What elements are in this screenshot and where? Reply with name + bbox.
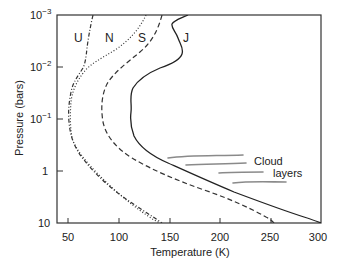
x-tick-label: 250 [261,231,279,243]
label-j: J [183,31,189,45]
y-axis-label: Pressure (bars) [13,80,25,156]
y-ticks [57,67,63,171]
y-tick-label: 10−1 [30,111,52,125]
y-tick-label: 10 [38,217,50,229]
y-tick-label: 10−3 [30,7,52,21]
label-s: S [138,31,146,45]
curve-j [131,15,321,223]
y-tick-label: 10−2 [30,59,52,73]
x-ticks [68,218,271,223]
x-tick-label: 100 [110,231,128,243]
y-tick-label: 1 [42,165,48,177]
plot-frame [57,15,321,223]
pressure-temperature-chart: 10−3 10−2 10−1 1 10 50 100 150 200 250 3… [0,0,342,269]
label-n: N [105,31,114,45]
curve-s [102,15,274,223]
x-tick-label: 150 [161,231,179,243]
x-tick-label: 50 [62,231,74,243]
x-tick-label: 300 [309,231,327,243]
x-axis-label: Temperature (K) [150,246,229,258]
cloud-label-line1: Cloud [254,155,283,167]
x-tick-label: 200 [211,231,229,243]
curve-u [69,15,162,223]
label-u: U [74,31,83,45]
cloud-label-line2: layers [273,167,303,179]
